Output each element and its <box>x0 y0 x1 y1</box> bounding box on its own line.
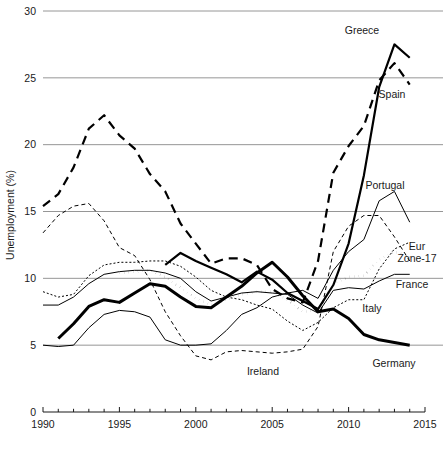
y-axis-title: Unemployment (%) <box>4 170 16 260</box>
italy-label: Italy <box>362 302 382 314</box>
y-tick-label-15: 15 <box>24 205 36 217</box>
series-labels: GreeceSpainPortugalEurZone-17FranceItaly… <box>247 24 437 377</box>
y-tick-label-0: 0 <box>30 406 36 418</box>
y-axis-title-text: Unemployment (%) <box>4 170 16 260</box>
portugal-label: Portugal <box>365 179 404 191</box>
x-tick-label-1990: 1990 <box>31 418 55 430</box>
x-axis <box>43 407 425 412</box>
series-line-italy <box>43 242 410 330</box>
x-tick-label-2005: 2005 <box>261 418 285 430</box>
x-tick-label-2010: 2010 <box>337 418 361 430</box>
series-line-greece <box>165 44 409 309</box>
unemployment-line-chart: 051015202530 199019952000200520102015 Un… <box>0 0 445 451</box>
greece-label: Greece <box>345 24 380 36</box>
eurzone-label1: Eur <box>409 240 426 252</box>
y-tick-label-20: 20 <box>24 138 36 150</box>
y-tick-label-10: 10 <box>24 272 36 284</box>
series-line-france <box>43 270 410 313</box>
y-tick-label-30: 30 <box>24 5 36 17</box>
germany-label: Germany <box>372 357 416 369</box>
y-axis-ticklabels: 051015202530 <box>24 5 36 418</box>
x-tick-label-1995: 1995 <box>108 418 132 430</box>
series-lines <box>43 44 410 359</box>
eurzone-label2: Zone-17 <box>397 252 436 264</box>
x-tick-label-2000: 2000 <box>184 418 208 430</box>
spain-label: Spain <box>379 88 406 100</box>
y-tick-label-5: 5 <box>30 339 36 351</box>
x-tick-label-2015: 2015 <box>413 418 437 430</box>
series-line-spain <box>43 63 410 302</box>
series-line-germany <box>58 262 409 345</box>
chart-canvas: 051015202530 199019952000200520102015 Un… <box>0 0 445 451</box>
y-tick-label-25: 25 <box>24 72 36 84</box>
france-label: France <box>396 278 429 290</box>
series-line-ireland <box>43 203 410 359</box>
ireland-label: Ireland <box>247 365 279 377</box>
x-axis-ticklabels: 199019952000200520102015 <box>31 418 437 430</box>
